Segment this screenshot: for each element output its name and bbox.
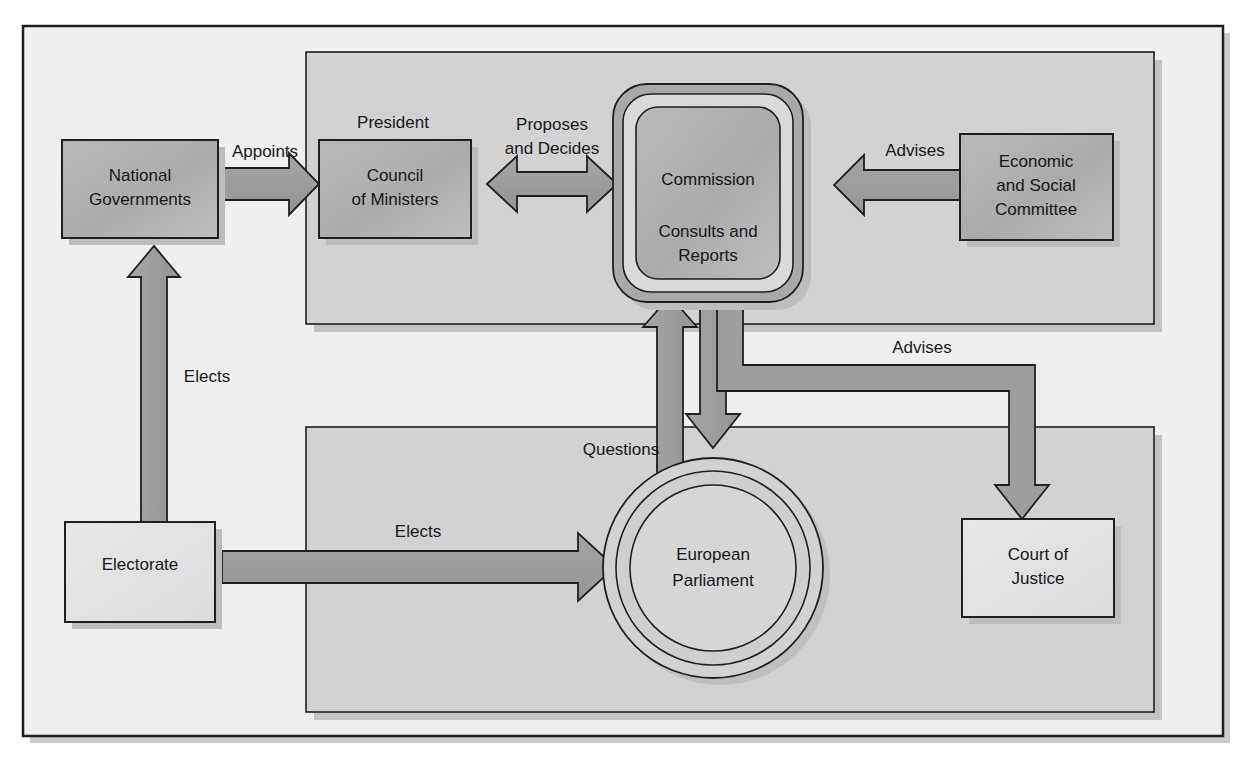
court-of-justice-box bbox=[962, 519, 1114, 617]
council-of-ministers-label-line1: Council bbox=[367, 166, 424, 185]
node-national-governments[interactable]: National Governments bbox=[62, 140, 225, 245]
national-governments-label-line2: Governments bbox=[89, 190, 191, 209]
council-of-ministers-box bbox=[319, 140, 471, 238]
advises-court-label: Advises bbox=[892, 338, 952, 357]
court-of-justice-label-line2: Justice bbox=[1012, 569, 1065, 588]
commission-label-line1: Commission bbox=[661, 170, 755, 189]
council-of-ministers-label-line2: of Ministers bbox=[352, 190, 439, 209]
commission-label-line2: Consults and bbox=[658, 222, 757, 241]
esc-label-line2: and Social bbox=[996, 176, 1075, 195]
court-of-justice-label-line1: Court of bbox=[1008, 545, 1069, 564]
elects-national-label: Elects bbox=[184, 367, 230, 386]
proposes-decides-label-line1: Proposes bbox=[516, 115, 588, 134]
elects-parliament-label: Elects bbox=[395, 522, 441, 541]
questions-label: Questions bbox=[583, 440, 660, 459]
commission-label-line3: Reports bbox=[678, 246, 738, 265]
node-commission[interactable]: Commission Consults and Reports bbox=[613, 84, 811, 310]
national-governments-box bbox=[62, 140, 218, 238]
proposes-decides-label-line2: and Decides bbox=[505, 139, 600, 158]
eu-institutions-diagram: Appoints Proposes and Decides Advises El… bbox=[0, 0, 1253, 763]
node-electorate[interactable]: Electorate bbox=[65, 522, 222, 629]
advises-esc-label: Advises bbox=[885, 141, 945, 160]
appoints-label: Appoints bbox=[232, 142, 298, 161]
council-president-caption: President bbox=[357, 113, 429, 132]
node-economic-social-committee[interactable]: Economic and Social Committee bbox=[960, 134, 1120, 247]
electorate-label: Electorate bbox=[102, 555, 179, 574]
parliament-label-line1: European bbox=[676, 545, 750, 564]
parliament-inner-circle bbox=[630, 485, 796, 651]
esc-label-line1: Economic bbox=[999, 152, 1074, 171]
parliament-label-line2: Parliament bbox=[672, 571, 754, 590]
diagram-canvas: Appoints Proposes and Decides Advises El… bbox=[0, 0, 1253, 763]
esc-label-line3: Committee bbox=[995, 200, 1077, 219]
national-governments-label-line1: National bbox=[109, 166, 171, 185]
node-court-of-justice[interactable]: Court of Justice bbox=[962, 519, 1121, 624]
